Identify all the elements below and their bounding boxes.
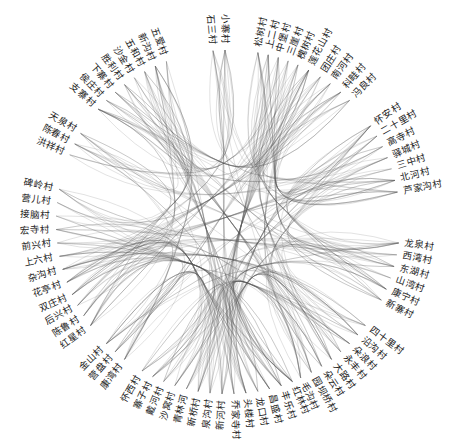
node-label: 碑岭村	[23, 176, 55, 193]
edge-link	[57, 72, 175, 233]
node-label: 新河村	[214, 400, 226, 430]
node-label: 前兴村	[21, 237, 52, 252]
node-label: 营儿村	[21, 192, 52, 206]
edge-link	[216, 50, 395, 182]
edge-layer	[56, 50, 399, 394]
node-label: 石三村	[205, 14, 219, 45]
node-label: 小寨村	[220, 14, 232, 44]
node-label: 乔家寺村	[230, 400, 242, 440]
node-label: 泉沟村	[200, 398, 214, 429]
edge-bundling-diagram: 小寨村松树村上二村中堡村三崖村槐树村莲花山村团庄村南河村科畦村冯良村怀安村二十里…	[0, 0, 456, 443]
node-label: 接脑村	[20, 208, 50, 220]
node-label: 宏寺村	[20, 223, 50, 235]
node-label: 头楼村	[242, 398, 256, 429]
